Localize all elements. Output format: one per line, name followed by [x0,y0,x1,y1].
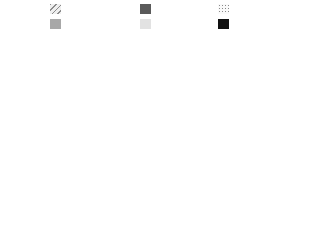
legend-item-north-america [218,4,233,14]
chart-root [0,0,322,232]
legend-row [50,2,318,15]
legend-swatch-asia-icon [50,4,61,14]
legend-item-oceania [218,19,233,29]
legend-swatch-oceania-icon [218,19,229,29]
legend-item-europe [140,4,218,14]
chart-legend [50,2,318,30]
legend-item-asia [50,4,140,14]
plot-area [0,30,322,232]
legend-swatch-north-america-icon [218,4,229,14]
legend-row [50,17,318,30]
legend-swatch-europe-icon [140,4,151,14]
legend-swatch-africa-icon [140,19,151,29]
stacked-area-plot [28,30,314,202]
y-axis-ticks [0,30,22,200]
legend-item-south-america [50,19,140,29]
legend-swatch-south-america-icon [50,19,61,29]
legend-item-africa [140,19,218,29]
x-axis-ticks [28,201,314,232]
